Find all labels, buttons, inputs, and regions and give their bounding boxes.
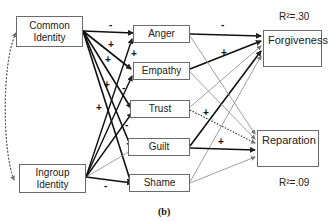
sign-empathy-forgiveness: + [221, 48, 227, 58]
figure-caption: (b) [158, 206, 170, 217]
sign-trust-reparation: + [203, 108, 209, 118]
node-label: Ingroup Identity [28, 167, 78, 191]
node-guilt: Guilt [128, 138, 190, 156]
sign-ci-guilt: + [104, 80, 110, 90]
sign-ci-anger: - [109, 20, 112, 30]
r-squared-reparation: R²=.09 [279, 177, 309, 188]
node-forgiveness: Forgiveness [263, 30, 322, 67]
sign-ci-trust: + [105, 55, 111, 65]
node-reparation: Reparation [257, 130, 319, 167]
node-label: Reparation [262, 134, 316, 146]
sign-ci-shame: + [96, 103, 102, 113]
node-label: Common Identity [25, 20, 75, 44]
node-trust: Trust [130, 100, 190, 118]
sign-ig-guilt: - [125, 120, 128, 130]
sign-ig-empathy: + [131, 49, 137, 59]
node-shame: Shame [129, 174, 190, 192]
node-label: Anger [148, 28, 175, 40]
sign-ci-empathy: + [108, 40, 114, 50]
node-label: Trust [149, 103, 171, 115]
sign-ig-shame: - [104, 181, 107, 191]
node-anger: Anger [133, 25, 190, 43]
node-label: Empathy [142, 65, 181, 77]
sign-guilt-reparation: + [218, 137, 224, 147]
node-empathy: Empathy [133, 62, 190, 80]
node-ingroup-identity: Ingroup Identity [19, 164, 86, 193]
node-label: Guilt [149, 141, 170, 153]
sign-ig-trust: - [122, 83, 125, 93]
node-label: Shame [144, 177, 176, 189]
r-squared-forgiveness: R²=.30 [279, 11, 309, 22]
sign-anger-forgiveness: - [221, 20, 224, 30]
node-label: Forgiveness [268, 34, 328, 46]
node-common-identity: Common Identity [16, 16, 83, 47]
